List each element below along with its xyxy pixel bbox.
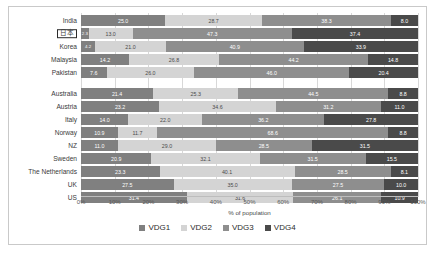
x-axis-tick: 10%: [109, 199, 121, 205]
legend-item-vdg3[interactable]: VDG3: [223, 223, 254, 232]
category-label: Norway: [9, 129, 77, 136]
bar-segment-vdg3: 44.5: [238, 88, 388, 99]
bar-segment-value: 46.0: [267, 70, 277, 76]
x-axis-tick: 30%: [176, 199, 188, 205]
category-label-cell: UK: [11, 179, 77, 190]
bar-segment-value: 8.8: [399, 91, 406, 97]
bar-segment-vdg2: 11.7: [118, 127, 157, 138]
stacked-bar: 20.932.131.515.5: [81, 153, 418, 164]
legend-swatch-icon: [223, 225, 229, 231]
bar-segment-vdg3: 46.0: [194, 67, 349, 78]
stacked-bar: 27.535.027.510.0: [81, 179, 418, 190]
category-label-cell: 日本: [11, 28, 77, 39]
bar-segment-vdg4: 20.4: [349, 67, 418, 78]
bar-segment-vdg1: 7.6: [81, 67, 107, 78]
chart-row: Italy14.022.036.227.8: [9, 114, 426, 125]
bar-segment-vdg2: 13.0: [89, 28, 133, 39]
chart-row: Sweden20.932.131.515.5: [9, 153, 426, 164]
legend-swatch-icon: [139, 225, 145, 231]
chart-row: 日本2.313.047.337.4: [9, 28, 426, 39]
bar-segment-vdg2: 29.0: [118, 140, 216, 151]
category-label-cell: Malaysia: [11, 54, 77, 65]
stacked-bar: 14.226.844.214.8: [81, 54, 418, 65]
bar-segment-vdg2: 21.0: [95, 41, 166, 52]
bar-segment-value: 27.5: [333, 182, 343, 188]
bar-segment-value: 40.9: [230, 44, 240, 50]
bar-segment-value: 11.0: [394, 104, 404, 110]
bar-segment-vdg2: 28.7: [165, 15, 262, 26]
x-axis-tick: 50%: [243, 199, 255, 205]
x-axis-tick: 0%: [77, 199, 86, 205]
bar-segment-vdg3: 31.2: [276, 101, 381, 112]
bar-segment-vdg4: 8.1: [391, 166, 418, 177]
bar-segment-value: 2.3: [82, 31, 88, 36]
category-label: 日本: [57, 29, 77, 39]
x-axis-ticks: 0%10%20%30%40%50%60%70%80%90%100%: [81, 197, 418, 209]
legend-label: VDG3: [232, 223, 254, 232]
bar-segment-vdg1: 14.0: [81, 114, 128, 125]
stacked-bar: 23.340.128.58.1: [81, 166, 418, 177]
stacked-bar: 7.626.046.020.4: [81, 67, 418, 78]
category-label-cell: US: [11, 192, 77, 203]
stacked-bar: 21.425.344.58.8: [81, 88, 418, 99]
stacked-bar: 10.911.768.68.8: [81, 127, 418, 138]
bar-segment-vdg3: 27.5: [292, 179, 385, 190]
bar-segment-value: 8.0: [401, 18, 408, 24]
bar-segment-value: 21.0: [125, 44, 135, 50]
bar-segment-value: 34.6: [212, 104, 222, 110]
stacked-bar: 23.234.631.211.0: [81, 101, 418, 112]
x-axis-tick: 70%: [311, 199, 323, 205]
bar-segment-value: 15.5: [387, 156, 397, 162]
chart-container: India25.028.738.38.0日本2.313.047.337.4Kor…: [8, 6, 427, 245]
bar-segment-value: 25.0: [118, 18, 128, 24]
bar-segment-vdg2: 26.0: [107, 67, 195, 78]
bar-segment-value: 21.4: [112, 91, 122, 97]
chart-row: Malaysia14.226.844.214.8: [9, 54, 426, 65]
bar-segment-vdg1: 4.2: [81, 41, 95, 52]
bar-segment-vdg4: 11.0: [381, 101, 418, 112]
bar-segment-value: 10.9: [94, 130, 104, 136]
category-label: NZ: [9, 142, 77, 149]
bar-segment-value: 36.2: [258, 117, 268, 123]
category-label-cell: Korea: [11, 41, 77, 52]
bar-segment-value: 8.1: [401, 169, 408, 175]
chart-row: Pakistan7.626.046.020.4: [9, 67, 426, 78]
bar-segment-value: 14.8: [388, 57, 398, 63]
plot-area: India25.028.738.38.0日本2.313.047.337.4Kor…: [9, 7, 426, 244]
x-axis-title: % of population: [81, 209, 418, 216]
bar-segment-value: 10.0: [396, 182, 406, 188]
stacked-bar: 2.313.047.337.4: [81, 28, 418, 39]
bar-segment-vdg3: 47.3: [133, 28, 292, 39]
bar-segment-vdg1: 21.4: [81, 88, 153, 99]
bar-segment-value: 31.5: [360, 143, 370, 149]
category-label: US: [9, 194, 77, 201]
legend-swatch-icon: [265, 225, 271, 231]
bar-segment-value: 44.5: [308, 91, 318, 97]
category-label: Korea: [9, 43, 77, 50]
bar-segment-value: 44.2: [288, 57, 298, 63]
bar-segment-value: 29.0: [162, 143, 172, 149]
chart-legend: VDG1VDG2VDG3VDG4: [9, 223, 426, 232]
bar-segment-value: 32.1: [200, 156, 210, 162]
legend-label: VDG1: [148, 223, 170, 232]
bar-segment-vdg2: 32.1: [151, 153, 259, 164]
bar-segment-value: 4.2: [85, 44, 91, 49]
stacked-bar: 4.221.040.933.9: [81, 41, 418, 52]
bar-segment-value: 20.4: [378, 70, 388, 76]
category-label: The Netherlands: [9, 168, 77, 175]
chart-row: NZ11.029.028.531.5: [9, 140, 426, 151]
x-axis-tick: 100%: [410, 199, 425, 205]
bar-segment-value: 28.7: [208, 18, 218, 24]
bar-segment-vdg1: 20.9: [81, 153, 151, 164]
bar-segment-value: 33.9: [356, 44, 366, 50]
legend-item-vdg1[interactable]: VDG1: [139, 223, 170, 232]
category-label-cell: Pakistan: [11, 67, 77, 78]
bar-segment-value: 27.5: [122, 182, 132, 188]
legend-item-vdg2[interactable]: VDG2: [181, 223, 212, 232]
bar-segment-value: 31.2: [323, 104, 333, 110]
legend-item-vdg4[interactable]: VDG4: [265, 223, 296, 232]
bar-segment-vdg4: 31.5: [312, 140, 418, 151]
bar-segment-value: 37.4: [350, 31, 360, 37]
x-axis-tick: 20%: [142, 199, 154, 205]
bar-segment-vdg2: 40.1: [160, 166, 295, 177]
